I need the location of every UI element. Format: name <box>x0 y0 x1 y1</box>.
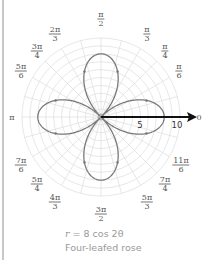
angle-label-pi-4: π4 <box>161 43 168 60</box>
angle-label-7pi-6: 7π6 <box>15 157 27 174</box>
angle-label-pi-3: π3 <box>143 26 150 43</box>
angle-label-5pi-6: 5π6 <box>15 63 27 80</box>
angle-label-5pi-4: 5π4 <box>31 176 43 193</box>
angle-label-11pi-6: 11π6 <box>172 157 189 174</box>
equation-caption: r = 8 cos 2θ <box>65 228 123 239</box>
r-tick-10: 10 <box>172 120 183 130</box>
angle-label-5pi-3: 5π3 <box>141 194 153 211</box>
r-tick-5: 5 <box>137 120 142 130</box>
angle-label-3pi-2: 3π2 <box>95 206 107 223</box>
angle-label-pi-6: π6 <box>175 63 182 80</box>
angle-label-0: 0 <box>196 113 201 122</box>
angle-label-2pi-3: 2π3 <box>49 26 61 43</box>
angle-label-pi-2: π2 <box>97 11 104 28</box>
angle-label-3pi-4: 3π4 <box>31 43 43 60</box>
angle-label-pi: π <box>9 113 14 122</box>
curve-name-caption: Four-leafed rose <box>65 242 142 253</box>
angle-label-4pi-3: 4π3 <box>49 194 61 211</box>
angle-label-7pi-4: 7π4 <box>159 176 171 193</box>
